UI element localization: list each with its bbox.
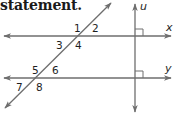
angle-label-4: 4 (75, 39, 82, 51)
angle-label-7: 7 (16, 81, 23, 93)
angle-label-5: 5 (32, 64, 39, 76)
angle-label-2: 2 (92, 22, 99, 34)
right-angle-mark-x (135, 29, 143, 36)
angle-label-6: 6 (52, 64, 59, 76)
angle-label-8: 8 (36, 81, 43, 93)
angle-label-1: 1 (74, 22, 81, 34)
label-u: u (140, 0, 147, 13)
parallel-lines-diagram: u x y 1 2 3 4 5 6 7 8 (0, 0, 176, 116)
label-x: x (165, 21, 173, 34)
right-angle-mark-y (135, 71, 143, 78)
angle-label-3: 3 (56, 39, 63, 51)
label-y: y (164, 62, 172, 75)
